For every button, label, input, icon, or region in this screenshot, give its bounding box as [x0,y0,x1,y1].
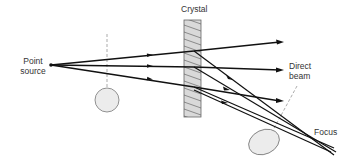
direct-arrowheads [276,40,284,104]
incident-rays [51,51,194,87]
direct-beam-label-line1: Direct [289,61,311,71]
focus-label: Focus [314,127,337,137]
point-source-label-line2: source [17,66,49,76]
direct-beam-label-line2: beam [289,71,310,81]
point-source-label-line1: Point [17,56,49,66]
crystal-label: Crystal [181,4,207,14]
point-source-dot [49,63,53,67]
incident-arrowheads [147,53,153,81]
ray-diagram [0,0,354,163]
